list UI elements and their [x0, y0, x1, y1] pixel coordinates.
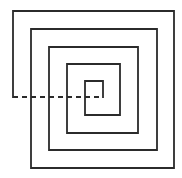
- background: [0, 0, 182, 178]
- square-spiral-diagram: [0, 0, 182, 178]
